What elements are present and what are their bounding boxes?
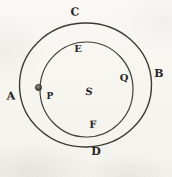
label-p: P bbox=[47, 92, 54, 101]
label-b: B bbox=[154, 68, 163, 79]
label-q: Q bbox=[120, 73, 129, 83]
label-a: A bbox=[7, 90, 16, 101]
label-f: F bbox=[89, 120, 96, 130]
concentric-circles-figure: A B C D E F Q S P bbox=[0, 0, 172, 177]
label-d: D bbox=[91, 146, 101, 157]
point-p-marker bbox=[35, 84, 41, 90]
label-c: C bbox=[70, 6, 79, 17]
label-e: E bbox=[74, 44, 82, 54]
label-s-center: S bbox=[85, 87, 93, 97]
